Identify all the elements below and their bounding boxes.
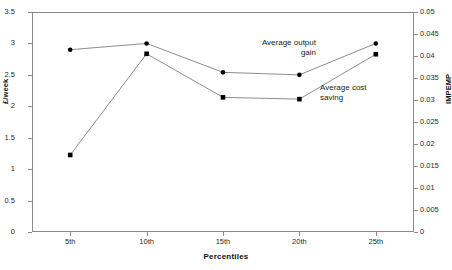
y-axis-left-tick-label: 2: [11, 102, 15, 110]
y-axis-left-tick: [28, 232, 32, 233]
x-axis-title: Percentiles: [0, 252, 452, 261]
y-axis-right-tick: [414, 210, 418, 211]
y-axis-right-tick-label: 0.035: [420, 74, 439, 82]
y-axis-left-tick-label: 2.5: [5, 71, 15, 79]
y-axis-left-tick-label: 1.5: [5, 134, 15, 142]
y-axis-right-tick: [414, 188, 418, 189]
data-point: [68, 153, 73, 158]
data-point: [297, 97, 302, 102]
y-axis-right-tick: [414, 144, 418, 145]
y-axis-right-tick-label: 0.05: [420, 8, 435, 16]
y-axis-right-tick: [414, 56, 418, 57]
cropped-header-artifact: [0, 0, 452, 9]
x-axis-tick-label: 15th: [216, 238, 231, 246]
x-axis-tick-label: 20th: [292, 238, 307, 246]
x-axis-tick-label: 5th: [65, 238, 75, 246]
data-point: [68, 47, 73, 52]
y-axis-left-tick-label: 3.5: [5, 8, 15, 16]
plot-area: [32, 12, 414, 232]
y-axis-right-tick-label: 0.04: [420, 52, 435, 60]
y-axis-right-title: IMPEMP: [444, 74, 452, 104]
y-axis-right-tick-label: 0.02: [420, 140, 435, 148]
annotation-average-cost-saving: Average cost saving: [320, 83, 406, 103]
data-point: [221, 70, 226, 75]
series-plot: [32, 12, 414, 232]
x-axis-tick: [70, 232, 71, 236]
data-point: [374, 41, 379, 46]
y-axis-right-tick-label: 0.005: [420, 206, 439, 214]
series-line-average-cost-saving: [70, 54, 376, 155]
x-axis-tick: [223, 232, 224, 236]
x-axis-tick: [147, 232, 148, 236]
y-axis-left-tick-label: 1: [11, 165, 15, 173]
y-axis-right-tick-label: 0.01: [420, 184, 435, 192]
y-axis-left-title: £/week: [1, 79, 10, 104]
y-axis-right-tick-label: 0.03: [420, 96, 435, 104]
data-point: [221, 95, 226, 100]
y-axis-right-tick: [414, 166, 418, 167]
y-axis-right-tick-label: 0: [420, 228, 424, 236]
y-axis-right-tick: [414, 12, 418, 13]
data-point: [144, 52, 149, 57]
y-axis-right-tick: [414, 78, 418, 79]
chart-container: 00.511.522.533.5 00.0050.010.0150.020.02…: [0, 0, 452, 270]
y-axis-right-tick: [414, 122, 418, 123]
x-axis-tick: [376, 232, 377, 236]
annotation-average-output-gain: Average output gain: [238, 38, 316, 58]
y-axis-right-tick: [414, 232, 418, 233]
data-point: [297, 73, 302, 78]
y-axis-right-tick-label: 0.015: [420, 162, 439, 170]
y-axis-left-tick-label: 0: [11, 228, 15, 236]
y-axis-left-tick-label: 3: [11, 39, 15, 47]
x-axis-tick-label: 10th: [139, 238, 154, 246]
y-axis-left-tick-label: 0.5: [5, 197, 15, 205]
x-axis-tick: [299, 232, 300, 236]
data-point: [374, 52, 379, 57]
y-axis-right-tick-label: 0.045: [420, 30, 439, 38]
data-point: [144, 41, 149, 46]
y-axis-right-tick: [414, 34, 418, 35]
y-axis-right-tick-label: 0.025: [420, 118, 439, 126]
x-axis-tick-label: 25th: [368, 238, 383, 246]
y-axis-right-tick: [414, 100, 418, 101]
